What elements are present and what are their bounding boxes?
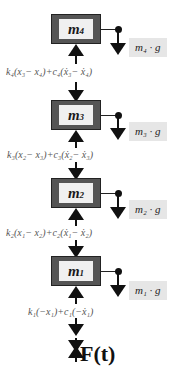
- mass-label: m: [68, 185, 80, 202]
- center-of-mass-dot: [115, 268, 122, 275]
- mass-subscript: 4: [80, 26, 85, 36]
- force-label-1-ground: k₁(−x₁)+c₁(−ẋ₁): [28, 306, 187, 317]
- weight-label-m2: m₂ · g: [129, 200, 167, 219]
- weight-label-m1: m₁ · g: [129, 281, 167, 300]
- mass-subscript: 1: [80, 268, 85, 278]
- mass-subscript: 2: [80, 190, 85, 200]
- mass-subscript: 3: [80, 112, 85, 122]
- center-of-mass-dot: [115, 112, 122, 119]
- mass-block-m4: m4: [51, 14, 101, 44]
- input-force-label: F(t): [80, 341, 115, 367]
- force-label-4-3: k₄(x₃− x₄)+c₄(ẋ₃− ẋ₄): [6, 66, 187, 77]
- mass-block-m2: m2: [51, 178, 101, 208]
- mass-label: m: [68, 21, 80, 38]
- force-label-2-1: k₂(x₁− x₂)+c₂(ẋ₁− ẋ₂): [6, 227, 187, 238]
- force-label-3-2: k₃(x₂− x₃)+c₃(ẋ₂− ẋ₃): [7, 149, 187, 160]
- weight-label-m3: m₃ · g: [129, 122, 167, 141]
- mass-block-m3: m3: [51, 100, 101, 130]
- center-of-mass-dot: [115, 26, 122, 33]
- mass-label: m: [68, 107, 80, 124]
- center-of-mass-dot: [115, 190, 122, 197]
- mass-label: m: [68, 263, 80, 280]
- mass-block-m1: m1: [51, 256, 101, 286]
- weight-label-m4: m₄ · g: [129, 38, 167, 57]
